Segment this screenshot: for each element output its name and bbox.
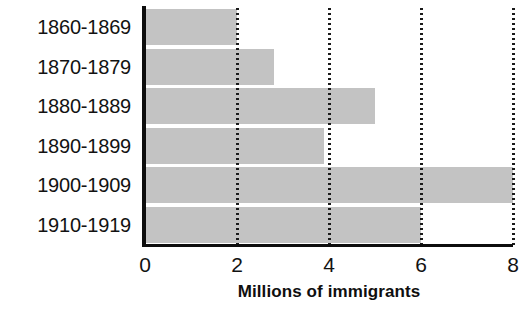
category-axis-labels: 1860-18691870-18791880-18891890-18991900… — [0, 8, 138, 245]
y-axis-line — [142, 6, 146, 247]
x-tick-label-0: 0 — [125, 252, 165, 278]
category-label-1860-1869: 1860-1869 — [37, 9, 131, 45]
immigration-bar-chart: 1860-18691870-18791880-18891890-18991900… — [0, 0, 525, 318]
category-label-1900-1909: 1900-1909 — [37, 167, 131, 203]
category-label-1870-1879: 1870-1879 — [37, 49, 131, 85]
value-axis-tick-labels: 02468 — [0, 252, 525, 280]
x-tick-label-8: 8 — [493, 252, 525, 278]
bar-1860-1869 — [145, 9, 237, 45]
x-tick-label-2: 2 — [217, 252, 257, 278]
bar-1880-1889 — [145, 88, 375, 124]
plot-area — [145, 8, 513, 245]
x-tick-label-4: 4 — [309, 252, 349, 278]
gridline-8 — [512, 8, 515, 245]
x-axis-title: Millions of immigrants — [145, 282, 513, 302]
bar-1870-1879 — [145, 49, 274, 85]
category-label-1880-1889: 1880-1889 — [37, 88, 131, 124]
category-label-1910-1919: 1910-1919 — [37, 207, 131, 243]
category-label-1890-1899: 1890-1899 — [37, 128, 131, 164]
bar-1910-1919 — [145, 207, 421, 243]
gridline-6 — [420, 8, 423, 245]
bar-1890-1899 — [145, 128, 324, 164]
x-axis-line — [142, 244, 513, 247]
gridline-2 — [236, 8, 239, 245]
gridline-4 — [328, 8, 331, 245]
x-tick-label-6: 6 — [401, 252, 441, 278]
